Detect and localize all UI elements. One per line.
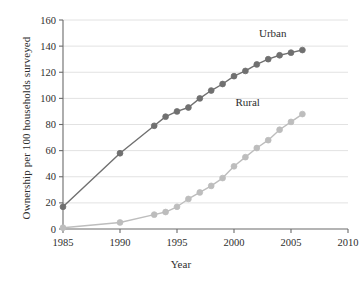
x-axis-ticks: 198519901995200020052010 bbox=[53, 229, 359, 248]
y-tick-label: 140 bbox=[40, 41, 56, 52]
data-point-marker bbox=[265, 137, 271, 143]
data-point-marker bbox=[277, 52, 283, 58]
gridlines bbox=[63, 20, 348, 203]
data-point-marker bbox=[60, 225, 66, 231]
y-axis-ticks: 020406080100120140160 bbox=[40, 15, 63, 235]
data-point-marker bbox=[243, 154, 249, 160]
data-point-marker bbox=[163, 114, 169, 120]
data-point-marker bbox=[60, 204, 66, 210]
x-tick-label: 1985 bbox=[53, 237, 74, 248]
y-tick-label: 0 bbox=[51, 224, 56, 235]
data-point-marker bbox=[151, 212, 157, 218]
chart-container: 198519901995200020052010 020406080100120… bbox=[0, 0, 362, 282]
y-tick-label: 120 bbox=[40, 67, 56, 78]
data-point-marker bbox=[300, 111, 306, 117]
data-point-marker bbox=[186, 105, 192, 111]
line-chart-plot: 198519901995200020052010 020406080100120… bbox=[0, 0, 362, 282]
data-point-marker bbox=[220, 175, 226, 181]
data-point-marker bbox=[117, 150, 123, 156]
data-point-marker bbox=[254, 145, 260, 151]
series-label-urban: Urban bbox=[259, 27, 287, 39]
data-point-marker bbox=[254, 62, 260, 68]
y-axis-title: Ownership per 100 households surveyed bbox=[20, 18, 32, 238]
data-point-marker bbox=[197, 95, 203, 101]
y-tick-label: 20 bbox=[46, 197, 57, 208]
data-point-marker bbox=[265, 56, 271, 62]
data-point-marker bbox=[208, 88, 214, 94]
data-point-marker bbox=[174, 109, 180, 115]
data-point-marker bbox=[163, 209, 169, 215]
x-tick-label: 2000 bbox=[224, 237, 245, 248]
x-tick-label: 1990 bbox=[110, 237, 131, 248]
series-urban bbox=[60, 47, 305, 210]
data-point-marker bbox=[208, 183, 214, 189]
data-point-marker bbox=[220, 81, 226, 87]
x-axis-title: Year bbox=[0, 258, 362, 270]
data-point-marker bbox=[197, 190, 203, 196]
data-point-marker bbox=[231, 163, 237, 169]
series-line-urban bbox=[63, 50, 302, 207]
data-point-marker bbox=[243, 68, 249, 74]
y-tick-label: 160 bbox=[40, 15, 56, 26]
y-tick-label: 40 bbox=[46, 171, 57, 182]
data-point-marker bbox=[151, 123, 157, 129]
x-tick-label: 2010 bbox=[338, 237, 359, 248]
data-point-marker bbox=[277, 127, 283, 133]
y-tick-label: 80 bbox=[46, 119, 57, 130]
data-point-marker bbox=[288, 119, 294, 125]
data-point-marker bbox=[174, 204, 180, 210]
x-tick-label: 2005 bbox=[281, 237, 302, 248]
series-label-rural: Rural bbox=[235, 96, 259, 108]
series-rural bbox=[60, 111, 305, 230]
x-tick-label: 1995 bbox=[167, 237, 188, 248]
data-point-marker bbox=[186, 196, 192, 202]
data-point-marker bbox=[117, 220, 123, 226]
data-point-marker bbox=[300, 47, 306, 53]
series-line-rural bbox=[63, 114, 302, 228]
y-tick-label: 60 bbox=[46, 145, 57, 156]
series-annotations: UrbanRural bbox=[235, 27, 287, 108]
data-point-marker bbox=[288, 50, 294, 56]
data-point-marker bbox=[231, 73, 237, 79]
y-tick-label: 100 bbox=[40, 93, 56, 104]
